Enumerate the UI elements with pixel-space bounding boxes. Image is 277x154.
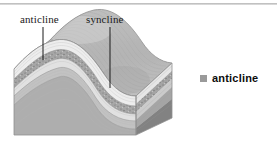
label-anticline: anticline (20, 13, 59, 25)
label-syncline: syncline (86, 13, 123, 25)
figure-root: anticline syncline anticline (0, 0, 277, 154)
legend-label-anticline: anticline (212, 72, 258, 84)
legend-swatch-icon (200, 75, 207, 82)
legend: anticline (200, 72, 258, 84)
